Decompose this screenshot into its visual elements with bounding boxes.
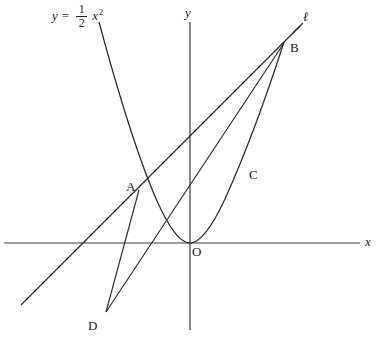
line-l	[21, 26, 300, 305]
point-label-b: B	[290, 41, 299, 54]
line-l-tip	[293, 23, 303, 33]
equation-label: y = 1 2 x2	[52, 3, 103, 29]
equation-equals: =	[62, 8, 69, 24]
figure-canvas	[0, 0, 385, 339]
point-label-c: C	[249, 168, 258, 181]
math-figure: y = 1 2 x2 y x ℓ A B C D O	[0, 0, 385, 339]
equation-lhs: y	[52, 8, 58, 24]
x-axis-label: x	[365, 235, 371, 248]
equation-variable-term: x2	[92, 8, 103, 24]
equation-variable: x	[92, 8, 98, 23]
y-axis-label: y	[185, 6, 191, 19]
line-l-label: ℓ	[303, 10, 308, 23]
parabola-curve	[99, 22, 284, 243]
point-label-o: O	[192, 245, 201, 258]
segment-d-a	[106, 190, 139, 312]
point-label-a: A	[126, 180, 135, 193]
equation-denominator: 2	[77, 17, 87, 30]
equation-numerator: 1	[77, 3, 87, 16]
equation-exponent: 2	[99, 8, 103, 17]
equation-fraction: 1 2	[76, 3, 87, 29]
point-label-d: D	[88, 319, 97, 332]
